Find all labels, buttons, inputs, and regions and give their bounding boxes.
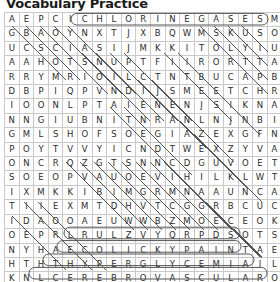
grid-cell[interactable]: E bbox=[19, 229, 34, 243]
grid-cell[interactable]: E bbox=[136, 128, 151, 142]
grid-cell[interactable]: V bbox=[136, 200, 151, 214]
grid-cell[interactable]: T bbox=[48, 142, 63, 156]
grid-cell[interactable]: A bbox=[253, 243, 268, 257]
grid-cell[interactable]: N bbox=[209, 113, 224, 127]
grid-cell[interactable]: A bbox=[194, 243, 209, 257]
grid-cell[interactable]: O bbox=[92, 70, 107, 84]
grid-cell[interactable]: T bbox=[267, 157, 280, 171]
grid-cell[interactable]: R bbox=[48, 229, 63, 243]
grid-cell[interactable]: O bbox=[209, 41, 224, 55]
grid-cell[interactable]: T bbox=[92, 99, 107, 113]
grid-cell[interactable]: I bbox=[165, 56, 180, 70]
grid-cell[interactable]: E bbox=[165, 99, 180, 113]
grid-cell[interactable]: E bbox=[92, 272, 107, 282]
grid-cell[interactable]: Y bbox=[165, 243, 180, 257]
grid-cell[interactable]: P bbox=[180, 243, 195, 257]
grid-cell[interactable]: S bbox=[121, 157, 136, 171]
grid-cell[interactable]: U bbox=[209, 272, 224, 282]
grid-cell[interactable]: T bbox=[92, 200, 107, 214]
grid-cell[interactable]: N bbox=[150, 157, 165, 171]
grid-cell[interactable]: I bbox=[180, 41, 195, 55]
grid-cell[interactable]: T bbox=[121, 113, 136, 127]
grid-cell[interactable]: I bbox=[165, 128, 180, 142]
grid-cell[interactable]: N bbox=[19, 272, 34, 282]
grid-cell[interactable]: A bbox=[194, 185, 209, 199]
grid-cell[interactable]: P bbox=[121, 56, 136, 70]
grid-cell[interactable]: E bbox=[48, 200, 63, 214]
grid-cell[interactable]: O bbox=[92, 243, 107, 257]
grid-cell[interactable]: G bbox=[194, 13, 209, 27]
grid-cell[interactable]: T bbox=[48, 257, 63, 271]
grid-cell[interactable]: N bbox=[136, 157, 151, 171]
grid-cell[interactable]: R bbox=[150, 113, 165, 127]
grid-cell[interactable]: O bbox=[121, 13, 136, 27]
grid-cell[interactable]: G bbox=[136, 185, 151, 199]
grid-cell[interactable]: V bbox=[92, 85, 107, 99]
grid-cell[interactable]: R bbox=[5, 70, 20, 84]
grid-cell[interactable]: T bbox=[223, 85, 238, 99]
grid-cell[interactable]: A bbox=[34, 27, 49, 41]
grid-cell[interactable]: G bbox=[136, 257, 151, 271]
grid-cell[interactable]: A bbox=[209, 185, 224, 199]
grid-cell[interactable]: R bbox=[253, 272, 268, 282]
grid-cell[interactable]: E bbox=[209, 214, 224, 228]
grid-cell[interactable]: N bbox=[180, 99, 195, 113]
grid-cell[interactable]: I bbox=[77, 70, 92, 84]
grid-cell[interactable]: D bbox=[5, 85, 20, 99]
grid-cell[interactable]: H bbox=[253, 85, 268, 99]
grid-cell[interactable]: D bbox=[209, 229, 224, 243]
grid-cell[interactable]: Y bbox=[150, 229, 165, 243]
grid-cell[interactable]: L bbox=[194, 113, 209, 127]
grid-cell[interactable]: J bbox=[223, 113, 238, 127]
grid-cell[interactable]: N bbox=[92, 113, 107, 127]
grid-cell[interactable]: L bbox=[107, 243, 122, 257]
grid-cell[interactable]: E bbox=[107, 257, 122, 271]
grid-cell[interactable]: A bbox=[77, 214, 92, 228]
grid-cell[interactable]: Y bbox=[238, 142, 253, 156]
grid-cell[interactable]: L bbox=[223, 41, 238, 55]
grid-cell[interactable]: I bbox=[5, 185, 20, 199]
grid-cell[interactable]: X bbox=[63, 200, 78, 214]
grid-cell[interactable]: B bbox=[194, 70, 209, 84]
grid-cell[interactable]: R bbox=[194, 56, 209, 70]
grid-cell[interactable]: R bbox=[267, 85, 280, 99]
grid-cell[interactable]: I bbox=[19, 200, 34, 214]
grid-cell[interactable]: C bbox=[223, 214, 238, 228]
grid-cell[interactable]: A bbox=[34, 214, 49, 228]
grid-cell[interactable]: E bbox=[136, 99, 151, 113]
grid-cell[interactable]: M bbox=[194, 27, 209, 41]
grid-cell[interactable]: R bbox=[63, 70, 78, 84]
grid-cell[interactable]: N bbox=[165, 70, 180, 84]
grid-cell[interactable]: K bbox=[165, 41, 180, 55]
grid-cell[interactable]: O bbox=[121, 171, 136, 185]
grid-cell[interactable]: T bbox=[107, 27, 122, 41]
grid-cell[interactable]: S bbox=[180, 272, 195, 282]
grid-cell[interactable]: Y bbox=[92, 142, 107, 156]
grid-cell[interactable]: A bbox=[267, 142, 280, 156]
grid-cell[interactable]: T bbox=[180, 70, 195, 84]
grid-cell[interactable]: L bbox=[238, 171, 253, 185]
grid-cell[interactable]: N bbox=[107, 85, 122, 99]
grid-cell[interactable]: O bbox=[48, 27, 63, 41]
grid-cell[interactable]: U bbox=[107, 171, 122, 185]
grid-cell[interactable]: A bbox=[5, 56, 20, 70]
grid-cell[interactable]: K bbox=[48, 185, 63, 199]
grid-cell[interactable]: J bbox=[121, 41, 136, 55]
grid-cell[interactable]: V bbox=[63, 142, 78, 156]
grid-cell[interactable]: S bbox=[5, 171, 20, 185]
grid-cell[interactable]: V bbox=[77, 142, 92, 156]
grid-cell[interactable]: B bbox=[19, 27, 34, 41]
grid-cell[interactable]: N bbox=[48, 99, 63, 113]
grid-cell[interactable]: A bbox=[209, 13, 224, 27]
grid-cell[interactable]: V bbox=[150, 171, 165, 185]
grid-cell[interactable]: C bbox=[48, 272, 63, 282]
grid-cell[interactable]: G bbox=[180, 200, 195, 214]
grid-cell[interactable]: H bbox=[63, 128, 78, 142]
grid-cell[interactable]: R bbox=[121, 272, 136, 282]
grid-cell[interactable]: O bbox=[48, 56, 63, 70]
grid-cell[interactable]: Q bbox=[165, 229, 180, 243]
grid-cell[interactable]: O bbox=[19, 171, 34, 185]
grid-cell[interactable]: Y bbox=[19, 243, 34, 257]
grid-cell[interactable]: R bbox=[180, 229, 195, 243]
grid-cell[interactable]: P bbox=[92, 257, 107, 271]
